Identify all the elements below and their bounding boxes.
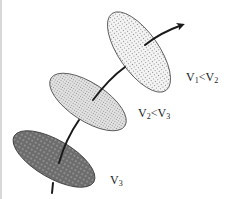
label-subscript: 2 xyxy=(214,76,218,85)
label-v3: V3 xyxy=(110,174,123,188)
ellipse-bottom xyxy=(5,120,104,199)
label-subscript: 3 xyxy=(166,112,170,121)
diagram-svg xyxy=(0,0,234,199)
diagram-canvas: V1<V2 V2<V3 V3 xyxy=(0,0,234,199)
label-v1-less-v2: V1<V2 xyxy=(186,71,218,85)
label-var: V xyxy=(110,173,119,187)
label-var: V xyxy=(157,106,166,120)
label-var: V xyxy=(186,70,195,84)
ellipse-middle xyxy=(41,62,135,142)
label-subscript: 3 xyxy=(119,179,123,188)
label-var: V xyxy=(205,70,214,84)
label-var: V xyxy=(138,106,147,120)
ellipse-top xyxy=(96,2,183,102)
label-v2-less-v3: V2<V3 xyxy=(138,107,170,121)
